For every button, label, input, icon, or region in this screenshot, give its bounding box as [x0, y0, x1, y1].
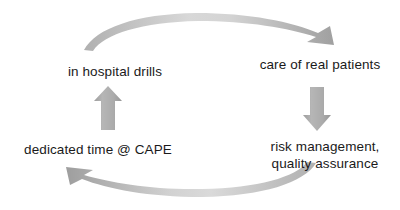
right-down-arrow	[303, 87, 331, 131]
diagram-canvas: in hospital drills care of real patients…	[0, 0, 400, 210]
node-label-care-of-real-patients: care of real patients	[244, 56, 396, 73]
top-arc-arrow	[84, 13, 334, 51]
node-label-dedicated-time-cape: dedicated time @ CAPE	[14, 141, 182, 158]
left-up-arrow	[94, 86, 122, 130]
node-label-in-hospital-drills: in hospital drills	[36, 63, 194, 80]
arrow-layer	[0, 0, 400, 210]
node-label-risk-management-quality-assurance: risk management, quality assurance	[252, 138, 398, 172]
